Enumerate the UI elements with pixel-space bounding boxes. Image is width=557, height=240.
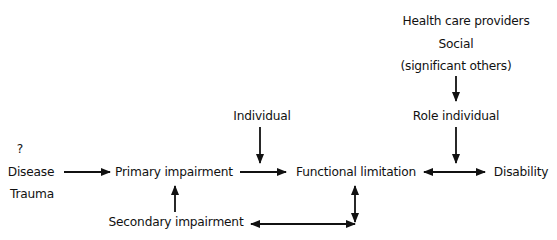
trauma-label: Trauma <box>10 187 54 201</box>
question-mark-label: ? <box>17 142 23 156</box>
individual-node: Individual <box>233 109 290 123</box>
social-label: Social <box>439 37 474 51</box>
secondary-impairment-node: Secondary impairment <box>109 215 244 229</box>
role-individual-node: Role individual <box>413 109 499 123</box>
disease-label: Disease <box>8 165 55 179</box>
disability-node: Disability <box>494 165 548 179</box>
health-care-providers-label: Health care providers <box>402 14 529 28</box>
primary-impairment-node: Primary impairment <box>115 165 233 179</box>
significant-others-label: (significant others) <box>400 59 511 73</box>
functional-limitation-node: Functional limitation <box>296 165 416 179</box>
